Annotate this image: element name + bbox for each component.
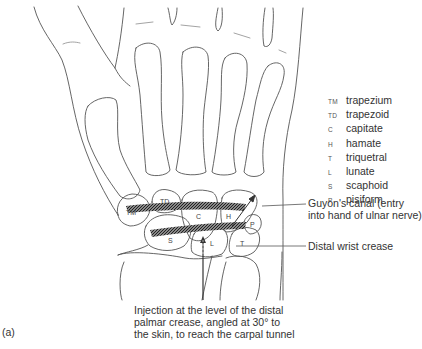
figure-label: (a) xyxy=(2,326,15,338)
guyon-canal-label: Guyon's canal (entry into hand of ulnar … xyxy=(308,197,422,221)
radius-outline xyxy=(118,245,148,255)
injection-label: Injection at the level of the distal pal… xyxy=(134,304,295,340)
legend-item: TMtrapezium xyxy=(328,94,392,108)
guyon-leader xyxy=(262,204,306,206)
legend-item: TDtrapezoid xyxy=(328,108,392,122)
distal-wrist-crease-label: Distal wrist crease xyxy=(308,240,393,252)
label-s: S xyxy=(168,237,173,244)
label-h: H xyxy=(226,213,231,220)
metacarpal-1 xyxy=(85,98,140,199)
ulna xyxy=(220,256,260,300)
metacarpal-4 xyxy=(212,53,247,175)
thumb-line xyxy=(78,6,130,86)
legend-item: Ttriquetral xyxy=(328,151,392,165)
label-t: T xyxy=(240,240,245,247)
legend-item: Ccapitate xyxy=(328,122,392,136)
metacarpal-2 xyxy=(135,43,170,176)
legend-item: Llunate xyxy=(328,165,392,179)
injection-needle xyxy=(200,236,206,300)
metacarpal-5 xyxy=(244,63,284,177)
legend-item: Hhamate xyxy=(328,137,392,151)
label-c: C xyxy=(196,213,201,220)
label-p: P xyxy=(250,221,255,228)
label-td: TD xyxy=(160,198,169,205)
triquetral-bone xyxy=(229,227,259,256)
bone-legend: TMtrapezium TDtrapezoid Ccapitate Hhamat… xyxy=(328,94,392,208)
label-l: L xyxy=(210,240,214,247)
radius xyxy=(118,253,222,300)
hand-outline-left xyxy=(34,7,118,215)
legend-item: Sscaphoid xyxy=(328,179,392,193)
label-tm: TM xyxy=(126,209,136,216)
metacarpal-3 xyxy=(176,47,209,175)
hand-outline-right xyxy=(283,8,303,300)
